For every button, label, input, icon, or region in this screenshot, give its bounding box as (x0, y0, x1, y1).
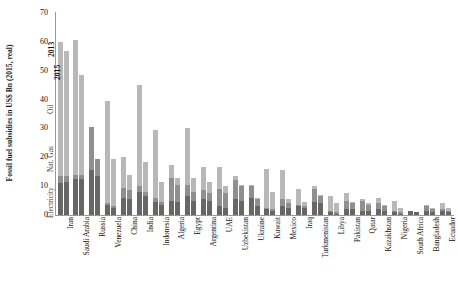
bar-2015 (207, 182, 212, 215)
bar-2013 (344, 193, 349, 215)
x-tick-label: Argentina (209, 217, 218, 246)
bar-2013 (233, 176, 238, 215)
bar-segment-oil (79, 75, 84, 175)
bar-2015 (223, 186, 228, 215)
bar-group (280, 13, 296, 215)
annotation-year-2013: 2013 (47, 41, 56, 56)
bar-segment-elec (239, 201, 244, 215)
bar-segment-oil (159, 182, 164, 202)
bar-segment-elec (105, 205, 110, 215)
bar-segment-gas (255, 199, 260, 206)
bar-segment-elec (312, 202, 317, 215)
legend-label-natural-gas: Nat. Gas (46, 146, 55, 172)
x-tick-label: Indonesia (162, 217, 171, 246)
bar-2013 (296, 189, 301, 215)
bar-segment-gas (58, 176, 63, 183)
y-tick-label: 40 (40, 96, 48, 104)
bar-segment-elec (121, 198, 126, 215)
bar-2013 (89, 127, 94, 215)
bar-2015 (382, 205, 387, 215)
x-tick-label: Ukraine (257, 217, 266, 241)
x-tick-label: Saudi Arabia (82, 217, 91, 255)
bar-group (58, 13, 74, 215)
y-axis-title: Fossil fuel subsidies in US$ Bn (2015, r… (2, 0, 16, 225)
x-tick-label: Mexico (289, 217, 298, 240)
bar-segment-oil (58, 42, 63, 176)
bar-segment-oil (191, 178, 196, 192)
bar-segment-gas (360, 201, 365, 211)
bar-segment-gas (249, 186, 254, 198)
bar-segment-elec (207, 201, 212, 215)
bar-segment-gas (191, 192, 196, 201)
bar-segment-elec (446, 212, 451, 215)
bar-group (408, 13, 424, 215)
y-tick-label: 50 (40, 67, 48, 75)
bar-segment-elec (270, 211, 275, 215)
bar-group (360, 13, 376, 215)
bar-2015 (79, 75, 84, 215)
y-tick-label: 30 (40, 124, 48, 132)
bar-segment-elec (58, 183, 63, 215)
bar-segment-elec (255, 206, 260, 215)
bar-2013 (360, 199, 365, 215)
bar-segment-gas (169, 178, 174, 201)
bar-2013 (264, 169, 269, 215)
bar-2015 (302, 202, 307, 215)
bar-segment-oil (334, 203, 339, 212)
bar-segment-elec (191, 201, 196, 215)
bar-segment-gas (127, 190, 132, 199)
bar-segment-gas (95, 159, 100, 176)
bar-group (105, 13, 121, 215)
bar-segment-oil (185, 128, 190, 184)
bar-2013 (424, 205, 429, 215)
bar-2013 (392, 201, 397, 215)
x-tick-label: China (130, 217, 139, 235)
bar-segment-oil (175, 178, 180, 185)
bar-segment-gas (121, 188, 126, 198)
bar-2015 (143, 162, 148, 215)
x-tick-label: Kuwait (273, 217, 282, 239)
bar-segment-elec (382, 211, 387, 215)
bar-segment-gas (89, 127, 94, 170)
bar-2015 (175, 178, 180, 216)
bar-segment-elec (79, 179, 84, 215)
bar-segment-elec (344, 209, 349, 215)
bar-2013 (137, 85, 142, 215)
bar-segment-elec (408, 211, 413, 215)
bar-segment-elec (398, 214, 403, 215)
bar-group (328, 13, 344, 215)
bar-segment-elec (159, 205, 164, 215)
bar-segment-elec (89, 170, 94, 215)
bar-segment-oil (105, 101, 110, 203)
bar-2013 (169, 165, 174, 216)
x-tick-label: Iraq (305, 217, 314, 229)
bar-segment-oil (223, 186, 228, 193)
x-tick-label: Algeria (177, 217, 186, 239)
bar-segment-elec (169, 201, 174, 215)
bar-2013 (312, 186, 317, 215)
bar-group (264, 13, 280, 215)
bar-group (312, 13, 328, 215)
bar-2015 (286, 199, 291, 215)
bar-2013 (73, 40, 78, 215)
bar-segment-elec (73, 179, 78, 215)
bar-segment-gas (223, 193, 228, 207)
bar-segment-elec (334, 214, 339, 215)
bar-segment-oil (201, 167, 206, 190)
bar-segment-elec (111, 208, 116, 215)
bar-group (169, 13, 185, 215)
bar-2013 (280, 170, 285, 215)
bar-segment-oil (392, 201, 397, 211)
bar-segment-elec (302, 208, 307, 215)
bar-segment-elec (376, 209, 381, 215)
x-tick-label: Qatar (368, 217, 377, 233)
bar-2015 (111, 159, 116, 215)
plot-area: Electricity Nat. Gas Oil 2013 2015 (56, 13, 454, 215)
bar-segment-elec (137, 192, 142, 215)
bar-group (376, 13, 392, 215)
x-tick-label: Ecuador (448, 217, 457, 242)
bar-segment-oil (169, 165, 174, 178)
bar-2013 (408, 211, 413, 215)
bar-segment-oil (296, 189, 301, 205)
x-tick-label: Kazakhstan (384, 217, 393, 251)
